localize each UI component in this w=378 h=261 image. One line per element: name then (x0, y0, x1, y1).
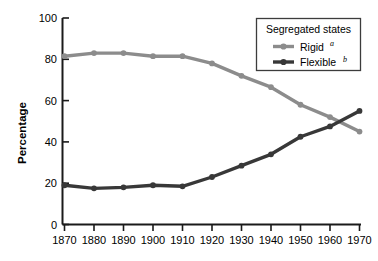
y-axis-title: Percentage (16, 102, 28, 164)
data-point (209, 61, 215, 67)
x-tick-label-1930: 1930 (229, 234, 253, 246)
series-layer (62, 50, 363, 191)
y-tick-label-40: 40 (45, 136, 57, 148)
x-tick-label-1880: 1880 (82, 234, 106, 246)
legend-superscript-flexible: b (343, 55, 347, 64)
line-chart: 100 80 60 40 20 0 Percentage 1870 1880 1… (0, 0, 378, 261)
x-tick-label-1920: 1920 (200, 234, 224, 246)
x-tick-label-1890: 1890 (111, 234, 135, 246)
series-flexible (62, 108, 363, 191)
data-point (268, 84, 274, 90)
data-point (91, 185, 97, 191)
data-point (239, 73, 245, 79)
y-tick-label-80: 80 (45, 53, 57, 65)
data-point (62, 182, 68, 188)
x-tick-label-1970: 1970 (347, 234, 371, 246)
data-point (121, 50, 127, 56)
x-tick-label-1900: 1900 (141, 234, 165, 246)
x-tick-label-1910: 1910 (170, 234, 194, 246)
data-point (209, 174, 215, 180)
data-point (180, 183, 186, 189)
y-tick-label-20: 20 (45, 177, 57, 189)
data-point (357, 108, 363, 114)
data-point (180, 53, 186, 59)
x-tick-label-1870: 1870 (52, 234, 76, 246)
data-point (298, 134, 304, 140)
data-point (150, 182, 156, 188)
y-tick-label-100: 100 (39, 12, 57, 24)
data-point (268, 151, 274, 157)
legend-label-rigid: Rigid (300, 41, 324, 53)
data-point (239, 163, 245, 169)
data-point (357, 129, 363, 135)
legend-marker-flexible (280, 59, 286, 65)
chart-legend: Segregated states Rigid a Flexible b (257, 19, 361, 71)
x-tick-label-1940: 1940 (259, 234, 283, 246)
data-point (150, 53, 156, 59)
legend-label-flexible: Flexible (300, 56, 336, 68)
y-tick-label-0: 0 (51, 219, 57, 231)
data-point (91, 50, 97, 56)
data-point (327, 124, 333, 130)
data-point (62, 53, 68, 59)
legend-title: Segregated states (266, 23, 351, 35)
y-tick-label-60: 60 (45, 95, 57, 107)
data-point (298, 102, 304, 108)
data-point (327, 114, 333, 120)
x-tick-label-1960: 1960 (318, 234, 342, 246)
legend-marker-rigid (280, 43, 286, 49)
chart-container: 100 80 60 40 20 0 Percentage 1870 1880 1… (0, 0, 378, 261)
x-tick-label-1950: 1950 (288, 234, 312, 246)
legend-superscript-rigid: a (330, 39, 334, 48)
data-point (121, 184, 127, 190)
